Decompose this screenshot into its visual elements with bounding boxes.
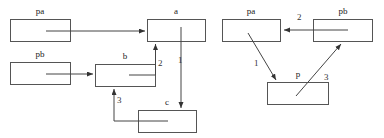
diagram-svg: [0, 0, 384, 138]
edge-label-a-to-c: 1: [178, 56, 183, 65]
box-label-b: b: [111, 52, 139, 61]
edge-label-pb-to-pa: 2: [297, 13, 302, 22]
edge-label-b-to-a: 2: [158, 59, 163, 68]
edge-label-p-to-pb: 3: [324, 73, 329, 82]
edge-label-pa-to-p: 1: [254, 59, 259, 68]
box-label-pa-left: pa: [26, 7, 54, 16]
box-label-c: c: [153, 98, 181, 107]
right-graph-group: [223, 20, 373, 105]
box-a[interactable]: [148, 20, 206, 42]
box-label-pb-left: pb: [26, 50, 54, 59]
box-label-pb-right: pb: [329, 7, 357, 16]
left-graph-group: [11, 20, 206, 133]
edge-label-c-to-b: 3: [117, 96, 122, 105]
box-label-pa-right: pa: [237, 7, 265, 16]
diagram-canvas: pa a pb b c 2 1 3 pa pb p 1 2 3: [0, 0, 384, 138]
box-label-a: a: [162, 7, 190, 16]
box-label-p: p: [284, 70, 312, 79]
